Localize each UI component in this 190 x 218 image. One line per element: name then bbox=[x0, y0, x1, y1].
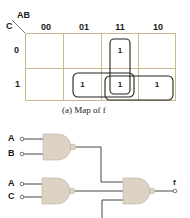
kmap-row-header: 1 bbox=[15, 79, 20, 89]
kmap-col-header: 01 bbox=[72, 22, 96, 32]
kmap-cell: 1 bbox=[64, 80, 101, 89]
input-label-a: A bbox=[8, 178, 15, 188]
nand-gate-3 bbox=[123, 178, 150, 204]
kmap-cell: 1 bbox=[139, 80, 175, 89]
nand-gate-2 bbox=[42, 178, 70, 204]
kmap-col-var: AB bbox=[17, 10, 30, 20]
kmap-row-header: 0 bbox=[14, 45, 19, 55]
input-label-b: B bbox=[8, 148, 15, 158]
kmap-col-header: 11 bbox=[108, 22, 132, 32]
kmap-col-header: 10 bbox=[146, 22, 170, 32]
input-label-c: C bbox=[8, 191, 15, 201]
kmap-cell: 1 bbox=[102, 80, 138, 89]
input-label-a: A bbox=[8, 133, 15, 143]
output-label-f: f bbox=[173, 178, 176, 187]
kmap-row-var: C bbox=[6, 21, 13, 31]
kmap-col-header: 00 bbox=[34, 22, 58, 32]
nand-gate-1 bbox=[43, 134, 71, 160]
kmap-caption: (a) Map of f bbox=[62, 105, 106, 115]
kmap-cell: 1 bbox=[102, 46, 138, 55]
